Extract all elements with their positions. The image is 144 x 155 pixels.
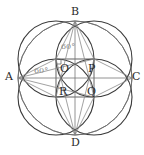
chord-B-to-O [56, 21, 75, 59]
point-label-O: O [60, 63, 69, 74]
figure-canvas [0, 0, 144, 155]
point-label-A: A [5, 71, 13, 82]
axis-lines-group [18, 21, 132, 135]
chord-D-to-Q [75, 97, 94, 135]
angle-label-top: 60° [61, 43, 75, 51]
chord-C-to-Q [94, 78, 132, 97]
point-label-C: C [132, 71, 140, 82]
chord-C-to-P [94, 59, 132, 78]
point-label-B: B [71, 6, 79, 17]
point-label-D: D [71, 137, 80, 148]
point-label-Q: Q [87, 86, 96, 97]
chord-A-to-R [18, 78, 56, 97]
geometry-figure: A B C D O P Q R 60° 60° [0, 0, 144, 155]
angle-label-left: 60° [34, 67, 48, 75]
point-label-R: R [59, 86, 67, 97]
chord-D-to-R [56, 97, 75, 135]
point-label-P: P [88, 63, 95, 74]
chord-B-to-P [75, 21, 94, 59]
